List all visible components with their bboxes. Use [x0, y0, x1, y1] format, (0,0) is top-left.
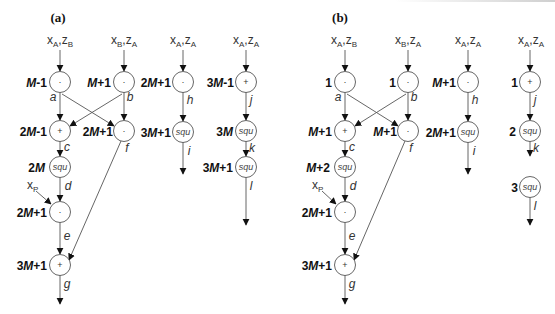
svg-text:f: f — [409, 141, 414, 155]
input-label-3: xA,zA — [170, 33, 197, 49]
svg-text:M+1: M+1 — [308, 125, 332, 139]
node-a: · 1 a — [325, 72, 355, 105]
svg-text:squ: squ — [338, 162, 353, 172]
edge-b-c — [355, 94, 406, 126]
node-g: + 3M+1 g — [17, 255, 71, 292]
panel-b: (b) xA,zB xB,zA xA,zA xA,zA — [302, 10, 545, 304]
svg-text:2M: 2M — [28, 161, 46, 175]
svg-text:+: + — [527, 77, 532, 87]
edge-a-f — [347, 94, 398, 126]
input-label-1: xA,zB — [47, 33, 73, 49]
svg-text:i: i — [188, 144, 191, 158]
svg-text:3M+1: 3M+1 — [203, 161, 234, 175]
svg-text:b: b — [127, 90, 134, 104]
svg-text:·: · — [467, 77, 470, 87]
panel-label: (b) — [332, 10, 348, 25]
input-label-4: xA,zA — [233, 33, 260, 49]
svg-text:j: j — [532, 93, 537, 107]
edge-f-g — [354, 141, 405, 260]
svg-text:squ: squ — [239, 126, 254, 136]
svg-text:a: a — [335, 90, 342, 104]
svg-text:c: c — [64, 140, 70, 154]
input-label-4: xA,zA — [518, 33, 545, 49]
node-f: · 2M+1 f — [83, 121, 135, 156]
svg-text:3M-1: 3M-1 — [207, 76, 235, 90]
svg-text:b: b — [411, 90, 418, 104]
svg-text:·: · — [123, 126, 126, 136]
svg-text:3M+1: 3M+1 — [17, 259, 48, 273]
svg-text:xA,zA: xA,zA — [170, 33, 197, 49]
svg-text:+: + — [342, 126, 347, 136]
edge-a-f — [62, 94, 114, 126]
input-xp: xP — [27, 178, 38, 194]
node-f: · M+1 f — [373, 121, 418, 156]
svg-text:squ: squ — [176, 127, 191, 137]
svg-text:3M: 3M — [216, 125, 234, 139]
svg-text:·: · — [123, 77, 126, 87]
svg-text:xA,zA: xA,zA — [518, 33, 545, 49]
input-xp: xP — [312, 178, 323, 194]
panel-label: (a) — [50, 10, 65, 25]
svg-text:k: k — [249, 141, 256, 155]
edge-b-c — [70, 94, 122, 126]
svg-text:M+1: M+1 — [373, 125, 397, 139]
svg-text:·: · — [344, 77, 347, 87]
node-h: · 2M+1 h — [141, 72, 194, 108]
svg-text:3M+1: 3M+1 — [302, 259, 333, 273]
svg-text:d: d — [350, 179, 357, 193]
svg-text:k: k — [533, 141, 540, 155]
svg-text:+: + — [342, 260, 347, 270]
svg-text:M+1: M+1 — [432, 76, 456, 90]
node-c: + M+1 c — [308, 121, 355, 155]
svg-text:i: i — [473, 144, 476, 158]
node-b: · M+1 b — [87, 72, 134, 105]
svg-text:+: + — [57, 260, 62, 270]
svg-text:1: 1 — [389, 76, 396, 90]
svg-text:squ: squ — [53, 162, 68, 172]
top-border-line — [395, 0, 555, 2]
node-l: squ 3M+1 l — [203, 157, 257, 194]
edge-f-g — [69, 141, 121, 260]
node-j: + 1 j — [511, 72, 540, 108]
svg-text:a: a — [50, 90, 57, 104]
svg-text:e: e — [349, 229, 356, 243]
svg-text:d: d — [65, 179, 72, 193]
node-l: squ 3 l — [511, 177, 540, 214]
svg-text:xA,zA: xA,zA — [233, 33, 260, 49]
input-label-1: xA,zB — [331, 33, 357, 49]
svg-text:g: g — [64, 277, 71, 291]
svg-text:·: · — [344, 207, 347, 217]
input-label-2: xB,zA — [111, 33, 138, 49]
svg-text:f: f — [125, 141, 130, 155]
svg-text:3M+1: 3M+1 — [141, 126, 172, 140]
node-c: + 2M-1 c — [20, 121, 71, 155]
svg-text:·: · — [59, 77, 62, 87]
svg-text:xA,zB: xA,zB — [47, 33, 73, 49]
svg-text:M+2: M+2 — [306, 161, 330, 175]
node-i: squ 3M+1 i — [141, 122, 194, 159]
svg-text:2M+1: 2M+1 — [17, 206, 48, 220]
svg-text:e: e — [64, 229, 71, 243]
input-label-3: xA,zA — [455, 33, 482, 49]
svg-text:2M+1: 2M+1 — [302, 206, 333, 220]
svg-text:2M+1: 2M+1 — [426, 126, 457, 140]
node-g: + 3M+1 g — [302, 255, 356, 292]
node-k: squ 3M k — [216, 121, 256, 156]
svg-text:1: 1 — [511, 76, 518, 90]
svg-text:xA,zA: xA,zA — [455, 33, 482, 49]
node-j: + 3M-1 j — [207, 72, 257, 108]
svg-text:2: 2 — [509, 125, 516, 139]
svg-text:·: · — [59, 207, 62, 217]
svg-text:+: + — [57, 126, 62, 136]
svg-text:squ: squ — [523, 182, 538, 192]
svg-text:2M+1: 2M+1 — [141, 76, 172, 90]
svg-text:xA,zB: xA,zB — [331, 33, 357, 49]
dataflow-diagram: (a) xA,zB xB,zA xA,zA xA,zA — [0, 0, 555, 314]
svg-text:squ: squ — [461, 127, 476, 137]
svg-text:·: · — [182, 77, 185, 87]
node-a: · M-1 a — [26, 72, 70, 105]
svg-text:xB,zA: xB,zA — [395, 33, 422, 49]
svg-text:M+1: M+1 — [87, 76, 111, 90]
svg-text:+: + — [243, 77, 248, 87]
svg-text:xB,zA: xB,zA — [111, 33, 138, 49]
